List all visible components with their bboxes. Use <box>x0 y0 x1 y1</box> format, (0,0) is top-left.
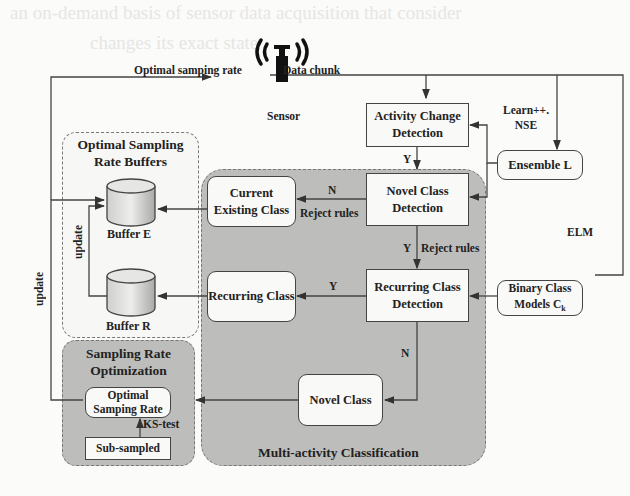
edge-label-n-recurring: N <box>401 347 409 359</box>
edge-label-reject-rules-2: Reject rules <box>421 242 479 254</box>
node-recurring-class: Recurring Class <box>207 271 296 322</box>
edge-label-learn-nse: Learn++. NSE <box>503 103 549 133</box>
node-binary-class-models: Binary Class Models Ck <box>497 280 583 316</box>
sensor-label: Sensor <box>267 110 300 122</box>
node-sub-sampled: Sub-sampled <box>85 437 171 460</box>
edge-ensemble-activity <box>470 125 497 163</box>
node-novel-class: Novel Class <box>298 374 383 426</box>
buffer-r-label: Buffer R <box>106 319 151 334</box>
buffer-e-label: Buffer E <box>107 227 151 242</box>
node-optimal-samping-rate: Optimal Samping Rate <box>85 387 171 418</box>
edge-label-n-novel: N <box>328 184 336 196</box>
edge-label-data-chunk: Data chunk <box>283 64 340 76</box>
sampling-region-title: Sampling Rate Optimization <box>64 346 193 380</box>
edge-label-update-outer: update <box>33 272 45 306</box>
buffers-region-title: Optimal Sampling Rate Buffers <box>64 137 197 171</box>
node-current-existing-class: Current Existing Class <box>207 176 296 227</box>
edge-label-y-recurring: Y <box>329 280 337 292</box>
multi-activity-region-title: Multi-activity Classification <box>258 445 419 461</box>
edge-ensemble-novel <box>470 163 487 197</box>
edge-recurring-novel <box>385 322 417 400</box>
node-novel-class-detection: Novel Class Detection <box>366 173 469 226</box>
database-buffer-r-icon <box>105 268 157 318</box>
database-buffer-e-icon <box>105 178 157 228</box>
edge-label-optimal-rate: Optimal samping rate <box>134 64 242 76</box>
node-recurring-class-detection: Recurring Class Detection <box>366 269 469 322</box>
edge-label-y-novel: Y <box>403 242 411 254</box>
edge-label-y-activity: Y <box>403 153 411 165</box>
node-activity-change-detection: Activity Change Detection <box>366 103 469 147</box>
edge-label-ks-test: KS-test <box>143 418 179 430</box>
node-ensemble-l: Ensemble L <box>497 150 583 180</box>
edge-label-update-inner: update <box>72 225 84 259</box>
edge-label-elm: ELM <box>567 226 593 238</box>
edge-label-reject-rules-1: Reject rules <box>300 207 358 219</box>
